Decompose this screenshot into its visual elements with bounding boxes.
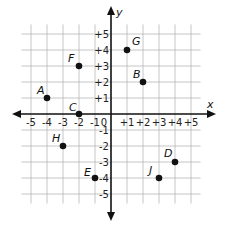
x-tick-label: +4: [168, 117, 183, 128]
point-label-A: A: [36, 84, 45, 97]
point-A: [44, 95, 51, 102]
origin-label: 0: [101, 117, 107, 128]
x-tick-label: +3: [152, 117, 167, 128]
x-tick-label: -3: [58, 117, 68, 128]
point-label-D: D: [164, 147, 172, 160]
point-label-B: B: [133, 68, 141, 81]
x-tick-label: -4: [42, 117, 52, 128]
y-tick-label: +5: [94, 29, 109, 40]
x-tick-label: +1: [120, 117, 135, 128]
y-tick-label: +1: [94, 93, 109, 104]
coordinate-plane: xy -5-4-3-2-1+1+2+3+4+5+5+4+3+2+1-1-2-3-…: [0, 0, 228, 229]
y-tick-label: +2: [94, 77, 109, 88]
point-label-G: G: [132, 35, 141, 48]
point-label-F: F: [68, 52, 75, 65]
point-H: [60, 143, 67, 150]
point-label-H: H: [52, 132, 60, 145]
y-tick-label: -2: [99, 141, 109, 152]
y-axis-arrow-down: [107, 212, 115, 221]
y-tick-label: -5: [99, 189, 109, 200]
point-B: [140, 79, 147, 86]
y-tick-label: -4: [99, 173, 109, 184]
y-tick-label: +3: [94, 61, 109, 72]
x-tick-label: -2: [74, 117, 84, 128]
y-axis-arrow-up: [107, 6, 115, 15]
point-label-C: C: [69, 101, 77, 114]
y-tick-label: -3: [99, 157, 109, 168]
point-G: [124, 47, 131, 54]
point-D: [172, 159, 179, 166]
x-tick-label: +2: [136, 117, 151, 128]
axes: xy: [12, 6, 216, 221]
point-label-E: E: [84, 166, 91, 179]
y-axis-label: y: [115, 6, 123, 19]
point-C: [76, 111, 83, 118]
point-label-J: J: [147, 164, 152, 177]
x-axis-arrow-left: [12, 110, 21, 118]
x-axis-arrow-right: [207, 110, 216, 118]
x-tick-label: +5: [184, 117, 199, 128]
x-tick-label: -5: [26, 117, 36, 128]
point-J: [156, 175, 163, 182]
y-tick-label: +4: [94, 45, 109, 56]
x-axis-label: x: [206, 98, 214, 111]
point-E: [92, 175, 99, 182]
point-F: [76, 63, 83, 70]
